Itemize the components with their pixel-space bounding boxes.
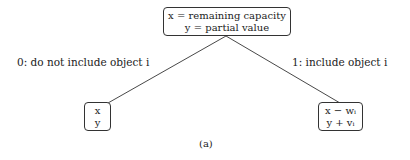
root-line-1: x = remaining capacity	[164, 10, 290, 22]
left-edge-label: 0: do not include object i	[17, 56, 149, 68]
root-node: x = remaining capacity y = partial value	[163, 7, 291, 36]
root-line-2: y = partial value	[164, 22, 290, 34]
edge-right	[226, 36, 340, 103]
right-child-line-2: y + vᵢ	[319, 117, 362, 129]
right-child-node: x − wᵢ y + vᵢ	[318, 102, 363, 131]
right-edge-label: 1: include object i	[292, 56, 387, 68]
edge-left	[108, 36, 226, 103]
left-child-line-1: x	[85, 105, 110, 117]
figure-caption: (a)	[199, 138, 213, 149]
left-child-node: x y	[84, 102, 111, 131]
right-child-line-1: x − wᵢ	[319, 105, 362, 117]
left-child-line-2: y	[85, 117, 110, 129]
